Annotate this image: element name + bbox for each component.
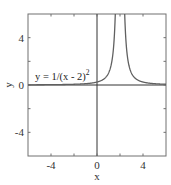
x-axis-label: x [94, 170, 100, 182]
x-tick-label: -4 [46, 159, 56, 171]
y-tick-label: -4 [15, 126, 25, 138]
function-annotation: y = 1/(x - 2)2 [35, 68, 90, 83]
annotation-main: y = 1/(x - 2) [35, 71, 86, 83]
y-axis-label: y [2, 82, 14, 88]
y-tick-label: 4 [19, 32, 25, 44]
y-tick-label: 0 [19, 79, 25, 91]
annotation-superscript: 2 [86, 68, 90, 77]
x-tick-label: 4 [140, 159, 146, 171]
chart-canvas: -4 0 4 4 0 -4 x y y = 1/(x - 2)2 [0, 0, 171, 185]
